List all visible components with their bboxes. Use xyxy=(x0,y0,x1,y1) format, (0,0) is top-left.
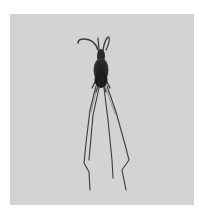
specimen-photo xyxy=(10,14,194,205)
image-frame xyxy=(0,0,199,213)
legs xyxy=(84,86,129,190)
antennae xyxy=(78,37,109,50)
organism-illustration xyxy=(10,14,194,205)
abdomen xyxy=(95,72,108,88)
